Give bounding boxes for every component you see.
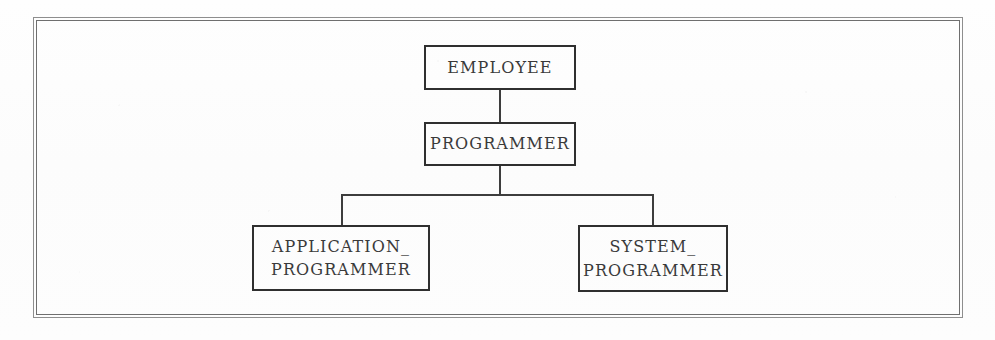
- connector-programmer-stem: [499, 166, 501, 195]
- entity-label-employee: EMPLOYEE: [447, 56, 552, 79]
- entity-box-employee[interactable]: EMPLOYEE: [424, 45, 576, 90]
- connector-employee-to-programmer: [499, 90, 501, 122]
- entity-box-programmer[interactable]: PROGRAMMER: [424, 122, 576, 166]
- connector-branch-horizontal: [341, 194, 654, 196]
- connector-drop-to-system-programmer: [652, 194, 654, 225]
- entity-box-system-programmer[interactable]: SYSTEM_ PROGRAMMER: [578, 225, 728, 292]
- entity-label-application-programmer: APPLICATION_ PROGRAMMER: [271, 235, 411, 281]
- diagram-canvas: EMPLOYEE PROGRAMMER APPLICATION_ PROGRAM…: [0, 0, 995, 340]
- entity-box-application-programmer[interactable]: APPLICATION_ PROGRAMMER: [252, 225, 430, 291]
- connector-drop-to-application-programmer: [341, 194, 343, 225]
- entity-label-programmer: PROGRAMMER: [430, 132, 570, 155]
- entity-label-system-programmer: SYSTEM_ PROGRAMMER: [583, 235, 723, 281]
